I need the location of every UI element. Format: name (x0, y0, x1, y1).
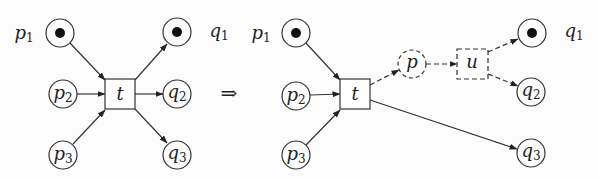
label-q3: q3 (167, 142, 186, 165)
label-t: t (116, 83, 124, 104)
label-u: u (466, 51, 478, 72)
arc-u-q1 (488, 39, 518, 52)
arc-t-q3 (135, 109, 167, 143)
label-q3: q3 (521, 140, 540, 163)
petri-net-diagram: p1 p2 p3 q1 q2 q3 t ⇒ p1 p2 p3 p q1 q2 q… (0, 0, 598, 179)
label-p-new: p (406, 51, 418, 72)
right-net (282, 19, 546, 169)
token-icon (527, 28, 537, 38)
label-q2: q2 (167, 81, 186, 104)
label-p2: p2 (286, 84, 305, 107)
label-p1: p1 (251, 22, 270, 45)
arc-p1-t (70, 43, 105, 80)
token-icon (55, 28, 65, 38)
place-p1 (46, 19, 74, 47)
arc-p3-t (73, 110, 105, 144)
place-q1 (518, 19, 546, 47)
label-p2: p2 (53, 82, 72, 105)
label-q2: q2 (521, 79, 540, 102)
arc-p1-t (306, 43, 340, 80)
label-p1: p1 (14, 22, 33, 45)
label-p3: p3 (286, 143, 305, 166)
arc-p2-t (310, 94, 340, 95)
label-q1: q1 (209, 20, 228, 43)
place-q1 (163, 18, 191, 46)
token-icon (172, 27, 182, 37)
arc-u-q2 (488, 74, 518, 86)
arc-t-p (370, 70, 399, 85)
arc-t-q3 (370, 100, 517, 149)
arc-p3-t (306, 110, 340, 145)
label-t: t (351, 83, 359, 104)
arc-t-q1 (135, 44, 167, 80)
implies-arrow: ⇒ (221, 81, 238, 105)
label-q1: q1 (564, 20, 583, 43)
token-icon (291, 28, 301, 38)
place-p1 (282, 19, 310, 47)
label-p3: p3 (53, 143, 72, 166)
